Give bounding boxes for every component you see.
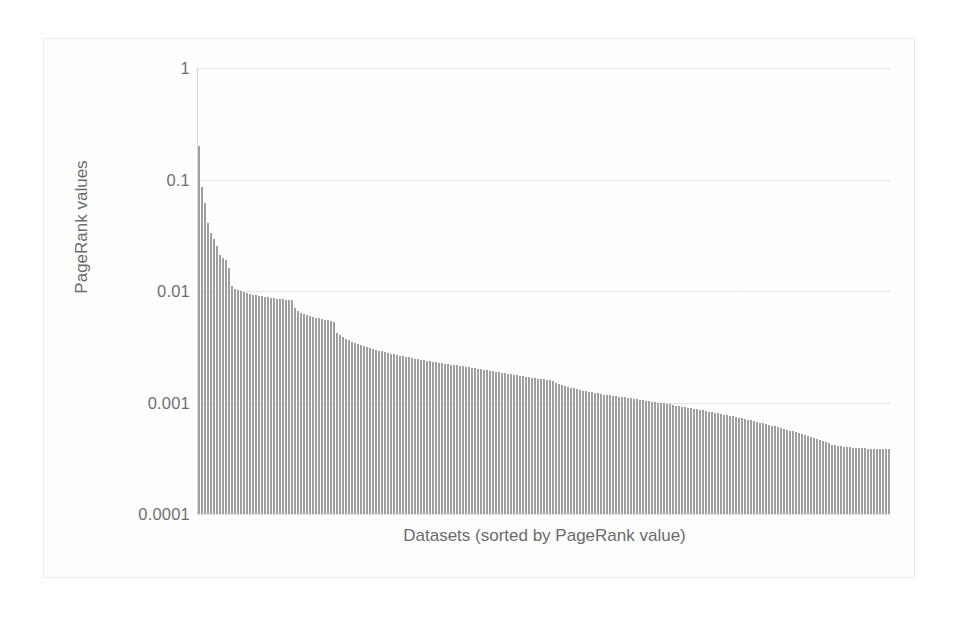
bar — [870, 449, 872, 514]
bar — [414, 359, 416, 514]
bar — [420, 360, 422, 514]
bar — [483, 370, 485, 514]
bar — [309, 316, 311, 514]
bar — [621, 397, 623, 514]
bar — [453, 365, 455, 514]
bar — [666, 404, 668, 514]
bar — [633, 399, 635, 514]
bar — [645, 401, 647, 514]
bar — [315, 318, 317, 514]
bar — [213, 239, 215, 514]
bar — [798, 433, 800, 514]
bar — [240, 291, 242, 514]
bar — [558, 384, 560, 514]
bar — [564, 386, 566, 514]
bar — [366, 347, 368, 514]
bar — [288, 300, 290, 514]
bar — [801, 434, 803, 514]
bar — [828, 443, 830, 514]
bar — [264, 297, 266, 514]
bar — [294, 308, 296, 514]
gridline-0.1 — [198, 180, 891, 181]
bar — [273, 298, 275, 514]
bar — [576, 389, 578, 514]
y-axis-title: PageRank values — [72, 127, 92, 327]
bar — [657, 403, 659, 515]
bar — [474, 368, 476, 514]
bar — [639, 400, 641, 514]
bar — [693, 409, 695, 514]
bar — [723, 415, 725, 514]
bar — [375, 350, 377, 514]
gridline-0.01 — [198, 291, 891, 292]
bar — [486, 370, 488, 514]
bar — [654, 402, 656, 514]
bar — [393, 354, 395, 514]
bar — [207, 223, 209, 514]
y-tick-label: 0.0001 — [138, 505, 190, 524]
bar — [318, 318, 320, 514]
bar — [444, 364, 446, 514]
bar — [363, 346, 365, 514]
bar — [636, 399, 638, 514]
y-axis-tick-labels: 10.10.010.0010.0001 — [44, 68, 190, 514]
bar — [777, 427, 779, 514]
bar — [858, 448, 860, 514]
bar — [345, 339, 347, 514]
bar — [390, 354, 392, 514]
bar — [663, 403, 665, 514]
bar — [873, 449, 875, 514]
bar — [435, 362, 437, 514]
bar — [582, 391, 584, 514]
bar — [237, 290, 239, 514]
bar — [609, 395, 611, 514]
y-tick-label: 0.1 — [166, 170, 190, 189]
bar — [831, 445, 833, 514]
bar — [396, 355, 398, 514]
bar — [687, 408, 689, 514]
bar — [447, 364, 449, 514]
bar — [330, 321, 332, 514]
bar — [624, 397, 626, 514]
bar — [780, 428, 782, 514]
bar — [855, 448, 857, 514]
bar — [546, 380, 548, 514]
bar — [423, 360, 425, 514]
bar — [489, 371, 491, 514]
bar — [204, 203, 206, 514]
bar — [729, 416, 731, 514]
bar — [888, 449, 890, 514]
bar — [300, 313, 302, 514]
bar — [228, 268, 230, 514]
bar — [297, 311, 299, 514]
bar — [387, 353, 389, 514]
bar — [672, 405, 674, 514]
bar — [735, 417, 737, 514]
bar — [198, 146, 200, 514]
bar — [501, 373, 503, 514]
bar — [333, 322, 335, 514]
bar — [885, 449, 887, 514]
bar — [513, 375, 515, 514]
bar — [210, 233, 212, 514]
bar — [603, 395, 605, 515]
bar — [534, 378, 536, 514]
bar — [522, 376, 524, 514]
bar — [459, 366, 461, 514]
bar — [783, 429, 785, 514]
bar — [573, 388, 575, 514]
bar — [462, 366, 464, 514]
bar — [561, 385, 563, 514]
bar — [849, 447, 851, 514]
bar — [312, 317, 314, 514]
bar — [600, 394, 602, 514]
bar — [324, 320, 326, 514]
bar — [864, 448, 866, 514]
bar — [225, 260, 227, 514]
bar — [669, 404, 671, 514]
bar — [426, 361, 428, 514]
bar — [510, 374, 512, 514]
bar — [303, 314, 305, 514]
bar — [879, 449, 881, 514]
bar — [327, 320, 329, 514]
